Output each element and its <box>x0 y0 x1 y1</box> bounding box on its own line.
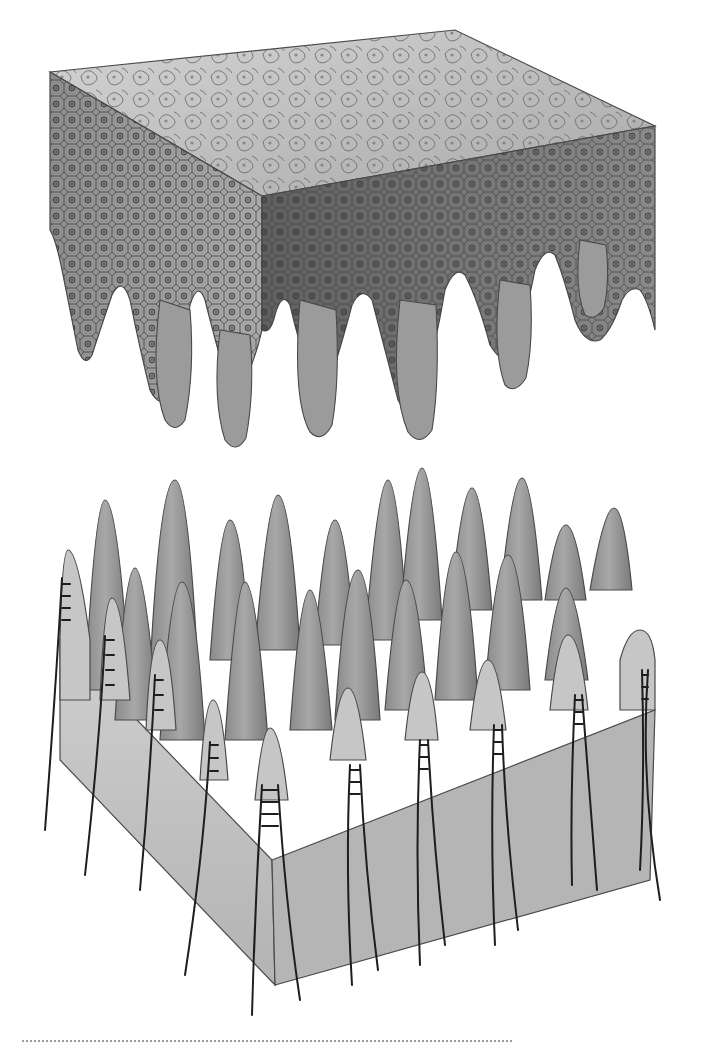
dermal-papillae-block <box>45 468 660 1015</box>
epidermis-block <box>50 30 655 447</box>
bottom-divider <box>22 1040 512 1042</box>
skin-layers-illustration <box>0 0 701 1049</box>
